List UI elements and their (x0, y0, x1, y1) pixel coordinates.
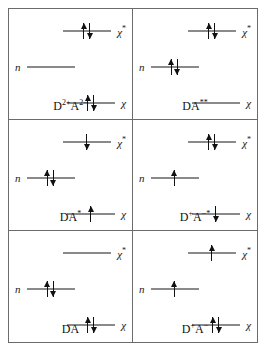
orbital-label-n: n (15, 173, 21, 184)
orbital-level-n (151, 168, 199, 188)
electron-arrow-down (214, 23, 215, 39)
orbital-line (27, 288, 75, 290)
orbital-line (188, 252, 236, 254)
level-row-chi-star: χ* (188, 243, 251, 263)
orbital-label-n: n (139, 284, 145, 295)
orbital-level-chi-star (188, 132, 236, 152)
orbital-label-n: n (15, 284, 21, 295)
state-label: DA* (9, 210, 132, 223)
level-row-n: n (139, 57, 199, 77)
panel-dplus-aminus: χ*nχD+A− (133, 231, 257, 342)
orbital-label-chi-star: χ* (117, 247, 126, 260)
electron-arrow-up (171, 59, 172, 75)
orbital-label-n: n (15, 62, 21, 73)
orbital-line (27, 66, 75, 68)
orbital-level-n (27, 279, 75, 299)
level-row-n: n (15, 168, 75, 188)
electron-arrow-down (86, 134, 87, 150)
state-label: DA** (133, 99, 257, 112)
orbital-line (27, 177, 75, 179)
orbital-level-chi-star (63, 21, 111, 41)
electron-arrow-down (53, 170, 54, 186)
level-row-n: n (15, 57, 75, 77)
orbital-level-n (151, 57, 199, 77)
orbital-line (188, 30, 236, 32)
state-label: D2+A2− (9, 99, 132, 112)
orbital-label-n: n (139, 173, 145, 184)
electron-arrow-up (211, 245, 212, 261)
panel-d2plus-a2minus: χ*nχD2+A2− (9, 9, 133, 120)
orbital-line (63, 30, 111, 32)
panel-dplus-aminus-star: χ*nχD+A−* (133, 120, 257, 231)
electron-arrow-up (47, 281, 48, 297)
orbital-level-chi-star (63, 243, 111, 263)
electron-arrow-up (174, 281, 175, 297)
panel-da: χ*nχDA (9, 231, 133, 342)
orbital-level-n (151, 279, 199, 299)
orbital-line (63, 252, 111, 254)
electron-arrow-down (53, 281, 54, 297)
electron-arrow-down (177, 59, 178, 75)
level-row-chi-star: χ* (188, 21, 251, 41)
orbital-level-chi-star (188, 243, 236, 263)
electron-arrow-up (208, 134, 209, 150)
level-row-n: n (15, 279, 75, 299)
orbital-line (151, 288, 199, 290)
level-row-chi-star: χ* (63, 132, 126, 152)
electron-arrow-down (214, 134, 215, 150)
electron-arrow-down (89, 23, 90, 39)
state-label: D+A− (133, 322, 257, 335)
level-row-chi-star: χ* (188, 132, 251, 152)
orbital-line (151, 66, 199, 68)
electron-arrow-up (83, 23, 84, 39)
orbital-label-chi-star: χ* (117, 136, 126, 149)
level-row-n: n (139, 279, 199, 299)
level-row-chi-star: χ* (63, 21, 126, 41)
orbital-level-n (27, 57, 75, 77)
electron-arrow-up (208, 23, 209, 39)
orbital-label-chi-star: χ* (242, 247, 251, 260)
orbital-label-chi-star: χ* (117, 25, 126, 38)
level-row-n: n (139, 168, 199, 188)
electron-arrow-up (47, 170, 48, 186)
orbital-line (63, 141, 111, 143)
orbital-label-n: n (139, 62, 145, 73)
orbital-line (151, 177, 199, 179)
state-label: DA (9, 323, 132, 335)
state-label: D+A−* (133, 210, 257, 223)
orbital-level-chi-star (188, 21, 236, 41)
panel-da-double-star: χ*nχDA** (133, 9, 257, 120)
panel-da-star: χ*nχDA* (9, 120, 133, 231)
level-row-chi-star: χ* (63, 243, 126, 263)
orbital-label-chi-star: χ* (242, 25, 251, 38)
orbital-label-chi-star: χ* (242, 136, 251, 149)
orbital-diagram-grid: χ*nχD2+A2−χ*nχDA**χ*nχDA*χ*nχD+A−*χ*nχDA… (8, 8, 258, 343)
electron-arrow-up (174, 170, 175, 186)
orbital-level-chi-star (63, 132, 111, 152)
orbital-level-n (27, 168, 75, 188)
orbital-line (188, 141, 236, 143)
